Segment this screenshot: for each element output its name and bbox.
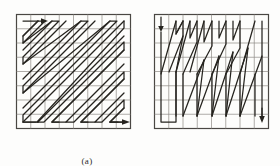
panel-a-svg	[14, 12, 134, 132]
panel-b-vertical-scan: (b)	[152, 12, 272, 132]
panel-b-svg	[152, 12, 272, 132]
figure-root: (a)	[0, 0, 280, 166]
panel-a-diagonal-scan: (a)	[14, 12, 134, 132]
panel-a-caption: (a)	[28, 156, 146, 166]
